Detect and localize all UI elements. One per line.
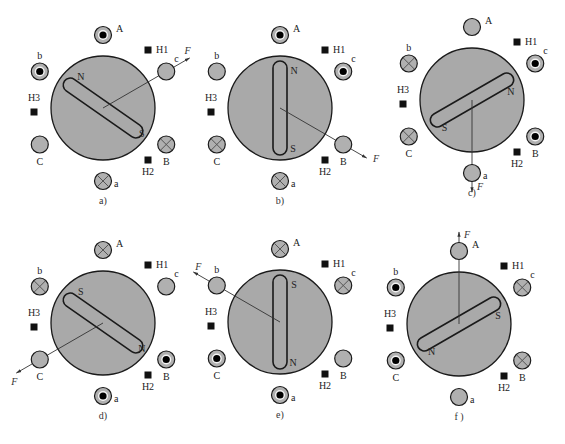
hall-sensor-h3: H3 [384, 308, 396, 332]
coil-B-empty: B [335, 136, 352, 167]
coil-label: A [116, 23, 124, 34]
coil-label: a [470, 394, 475, 405]
hall-sensor-h1: H1 [501, 260, 525, 271]
hall-label: H3 [397, 84, 409, 95]
hall-sensor-icon [322, 371, 329, 378]
current-out-dot-icon [276, 391, 283, 398]
coil-label: A [485, 15, 493, 26]
pole-label: S [139, 128, 145, 139]
coil-B-dot: B [158, 351, 175, 382]
hall-sensor-h2: H2 [319, 371, 331, 392]
coil-A-dot: A [95, 23, 125, 44]
coil-label: B [163, 371, 170, 382]
coil-label: B [532, 148, 539, 159]
hall-sensor-h1: H1 [145, 44, 169, 55]
coil-body [208, 277, 225, 294]
coil-label: b [214, 50, 219, 61]
coil-body [464, 165, 481, 182]
hall-sensor-h2: H2 [498, 373, 510, 394]
force-label: F [463, 229, 471, 240]
coil-label: A [116, 238, 124, 249]
panel-caption: c) [468, 187, 476, 199]
coil-label: b [393, 266, 398, 277]
coil-c-empty: c [158, 268, 180, 296]
coil-body [335, 350, 352, 367]
hall-label: H2 [498, 382, 510, 393]
coil-C-cross: C [400, 128, 417, 159]
coil-c-dot: c [335, 53, 357, 81]
coil-label: C [36, 371, 43, 382]
force-label: F [184, 45, 192, 56]
panel-f: SNFAcBaCbH1H2H3f ) [384, 229, 535, 423]
coil-body [31, 351, 48, 368]
pole-label: N [77, 71, 84, 82]
hall-sensor-icon [145, 157, 152, 164]
hall-sensor-h2: H2 [142, 372, 154, 393]
coil-a-empty: a [464, 165, 489, 182]
coil-b-dot: b [387, 266, 404, 297]
panel-caption: f ) [454, 411, 463, 423]
panel-b: NSFAcBaCbH1H2H3b) [205, 23, 380, 207]
hall-label: H2 [142, 166, 154, 177]
panel-caption: d) [99, 410, 107, 422]
hall-sensor-h3: H3 [205, 92, 217, 116]
hall-label: H2 [319, 166, 331, 177]
coil-label: C [213, 370, 220, 381]
hall-sensor-h1: H1 [322, 44, 346, 55]
coil-label: a [114, 393, 119, 404]
hall-sensor-h1: H1 [514, 36, 538, 47]
coil-a-dot: a [272, 387, 297, 404]
coil-label: c [174, 268, 179, 279]
force-label: F [476, 181, 484, 192]
current-out-dot-icon [276, 31, 283, 38]
coil-C-empty: C [31, 351, 48, 382]
hall-label: H1 [333, 258, 345, 269]
hall-sensor-icon [387, 325, 394, 332]
hall-label: H1 [512, 260, 524, 271]
current-out-dot-icon [99, 392, 106, 399]
coil-label: a [291, 178, 296, 189]
coil-a-cross: a [95, 173, 120, 190]
coil-b-empty: b [208, 264, 225, 295]
coil-A-empty: A [451, 239, 481, 260]
coil-body [158, 63, 175, 80]
hall-label: H1 [156, 44, 168, 55]
coil-label: c [351, 267, 356, 278]
force-label: F [372, 153, 380, 164]
pole-label: S [78, 286, 84, 297]
coil-body [464, 19, 481, 36]
coil-label: c [543, 45, 548, 56]
coil-label: c [530, 269, 535, 280]
current-out-dot-icon [36, 68, 43, 75]
coil-label: b [214, 264, 219, 275]
hall-sensor-icon [322, 157, 329, 164]
hall-sensor-icon [514, 149, 521, 156]
pole-label: S [290, 143, 296, 154]
panel-a: NSFAcBaCbH1H2H3a) [28, 23, 192, 207]
coil-body [31, 136, 48, 153]
coil-label: a [114, 178, 119, 189]
coil-b-cross: b [400, 42, 417, 73]
pole-label: S [442, 122, 448, 133]
hall-label: H3 [28, 92, 40, 103]
pole-label: N [289, 357, 296, 368]
coil-A-empty: A [464, 15, 494, 36]
hall-sensor-icon [322, 47, 329, 54]
hall-sensor-h1: H1 [145, 259, 169, 270]
coil-b-empty: b [208, 50, 225, 81]
current-out-dot-icon [532, 133, 539, 140]
coil-body [208, 63, 225, 80]
coil-a-empty: a [451, 389, 476, 406]
hall-label: H1 [333, 44, 345, 55]
hall-sensor-icon [31, 109, 38, 116]
hall-sensor-icon [400, 101, 407, 108]
coil-B-cross: B [514, 352, 531, 383]
coil-B-cross: B [158, 136, 175, 167]
hall-sensor-h2: H2 [511, 149, 523, 170]
hall-sensor-icon [145, 47, 152, 54]
coil-b-dot: b [31, 50, 48, 81]
hall-sensor-icon [501, 263, 508, 270]
hall-label: H1 [156, 259, 168, 270]
coil-label: a [291, 392, 296, 403]
coil-C-cross: C [208, 136, 225, 167]
